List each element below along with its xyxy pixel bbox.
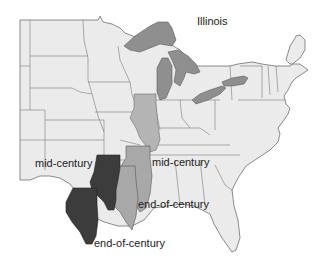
illinois-end-of-century-dark [66, 188, 98, 244]
map-title: Illinois [197, 15, 228, 27]
us-map [0, 0, 335, 272]
eastern-us-landmass [20, 16, 308, 252]
label-end-of-century-light: end-of-century [138, 198, 209, 210]
label-end-of-century-dark: end-of-century [94, 237, 165, 249]
label-mid-century-light: mid-century [152, 156, 209, 168]
label-mid-century-dark: mid-century [35, 157, 92, 169]
